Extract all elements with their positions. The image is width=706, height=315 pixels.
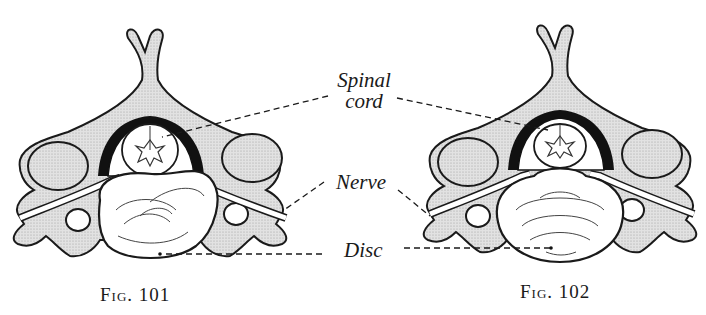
label-nerve: Nerve [336,172,386,193]
caption-fig-101: Fig. 101 [100,284,170,306]
caption-fig-102: Fig. 102 [520,281,590,303]
label-spinal-cord: Spinal cord [333,70,395,112]
label-disc: Disc [344,240,383,261]
spinal-cord-fig-101 [122,124,178,176]
leader-nerve-101 [284,182,324,210]
facet-left [28,142,88,190]
foramen-left [66,209,90,231]
spinal-cord-fig-102 [534,124,586,168]
disc-fig-101 [99,171,218,258]
diagram-canvas [0,0,706,315]
facet-right [622,130,682,178]
facet-right [222,134,282,182]
facet-left [438,138,498,186]
leader-nerve-102 [398,190,430,216]
vertebra-fig-101 [14,29,287,258]
vertebra-fig-102 [424,25,697,262]
foramen-left [466,205,490,227]
